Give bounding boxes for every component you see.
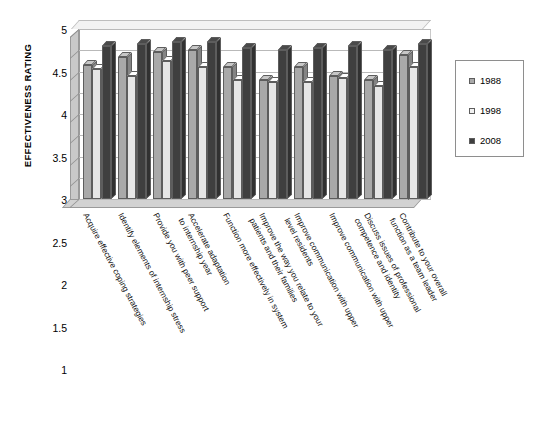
bar-1998 <box>374 86 383 199</box>
category-label: Contribute to your overall function as a… <box>388 211 500 397</box>
bar-1988 <box>399 55 408 200</box>
bar-2008 <box>207 42 216 199</box>
bar-face <box>137 44 146 199</box>
bar-face <box>329 76 338 199</box>
bar-group <box>290 29 325 199</box>
bar-1998 <box>92 69 101 199</box>
bar-1998 <box>268 82 277 199</box>
category-label: Provide you with peer support <box>151 211 254 393</box>
bar-2008 <box>383 50 392 199</box>
bar-group <box>149 29 184 199</box>
bar-face <box>364 80 373 199</box>
bar-2008 <box>137 44 146 199</box>
legend-item-2008: 2008 <box>469 135 501 146</box>
bar-1988 <box>329 76 338 199</box>
y-tick-label: 1.5 <box>52 322 67 334</box>
category-label: Function more effectively in system <box>221 211 324 393</box>
bar-2008 <box>418 44 427 199</box>
bar-group <box>185 29 220 199</box>
bar-1988 <box>364 80 373 199</box>
legend-label-1988: 1988 <box>480 75 501 86</box>
y-tick-label: 3 <box>61 194 67 206</box>
y-tick-label: 5 <box>61 24 67 36</box>
bar-group <box>220 29 255 199</box>
bar-2008 <box>348 46 357 199</box>
bar-face <box>207 42 216 199</box>
bar-face <box>198 67 207 199</box>
bar-face <box>83 65 92 199</box>
legend-label-1998: 1998 <box>480 105 501 116</box>
y-tick-label: 2.5 <box>52 237 67 249</box>
category-label: Improve communication with upper <box>327 211 430 393</box>
bar-face <box>102 46 111 199</box>
bar-2008 <box>313 48 322 199</box>
bar-group <box>255 29 290 199</box>
category-label: Identify elements of internship stress <box>115 211 218 393</box>
bar-group <box>325 29 360 199</box>
bar-face <box>313 48 322 199</box>
bar-face <box>92 69 101 199</box>
bar-face <box>172 42 181 199</box>
bar-1998 <box>409 67 418 199</box>
plot-floor <box>62 199 422 208</box>
bar-1988 <box>118 57 127 199</box>
bar-1998 <box>338 78 347 199</box>
bar-2008 <box>278 50 287 199</box>
category-label: Accelerate adaptation to internship year <box>177 211 289 397</box>
bar-2008 <box>102 46 111 199</box>
y-tick-label: 2 <box>61 279 67 291</box>
legend-item-1998: 1998 <box>469 105 501 116</box>
bar-groups <box>79 29 431 199</box>
bar-group <box>79 29 114 199</box>
bar-face <box>294 67 303 199</box>
category-label: Improve the way you relate to your patie… <box>247 211 359 397</box>
bar-2008 <box>242 48 251 199</box>
legend: 1988 1998 2008 <box>455 60 524 157</box>
bar-face <box>374 86 383 199</box>
gridline: 1 <box>79 199 431 200</box>
bar-1998 <box>303 82 312 199</box>
category-label: Discuss issues of professional competenc… <box>353 211 465 397</box>
bar-1998 <box>233 80 242 199</box>
bar-face <box>303 82 312 199</box>
plot-top-slab <box>71 20 431 29</box>
bar-group <box>396 29 431 199</box>
bar-face <box>278 50 287 199</box>
legend-swatch-2008 <box>469 138 475 144</box>
bar-1988 <box>153 52 162 199</box>
y-axis-title: EFFECTIVENESS RATING <box>22 21 33 191</box>
bar-1998 <box>198 67 207 199</box>
bar-1988 <box>188 50 197 199</box>
bar-1988 <box>223 67 232 199</box>
y-tick-label: 3.5 <box>52 152 67 164</box>
y-tick-label: 4.5 <box>52 67 67 79</box>
bar-1988 <box>294 67 303 199</box>
bar-chart: EFFECTIVENESS RATING 54.543.532.521.51 A… <box>0 0 541 442</box>
bar-face <box>259 80 268 199</box>
bar-1988 <box>83 65 92 199</box>
bar-face <box>127 76 136 199</box>
y-tick-label: 4 <box>61 109 67 121</box>
legend-swatch-1988 <box>469 78 475 84</box>
legend-item-1988: 1988 <box>469 75 501 86</box>
bar-face <box>409 67 418 199</box>
bar-face <box>188 50 197 199</box>
legend-swatch-1998 <box>469 108 475 114</box>
bar-face <box>153 52 162 199</box>
bar-face <box>348 46 357 199</box>
bar-1988 <box>259 80 268 199</box>
bar-1998 <box>162 61 171 199</box>
y-tick-label: 1 <box>61 364 67 376</box>
category-label: Acquire effective coping strategies <box>80 211 183 393</box>
bar-2008 <box>172 42 181 199</box>
bar-face <box>233 80 242 199</box>
legend-label-2008: 2008 <box>480 135 501 146</box>
bar-face <box>118 57 127 199</box>
bar-group <box>114 29 149 199</box>
bar-group <box>361 29 396 199</box>
bar-face <box>383 50 392 199</box>
bar-face <box>268 82 277 199</box>
plot-area: 54.543.532.521.51 <box>79 29 431 199</box>
category-label: Improve communication with upper level r… <box>282 211 394 397</box>
bar-side <box>427 39 432 199</box>
